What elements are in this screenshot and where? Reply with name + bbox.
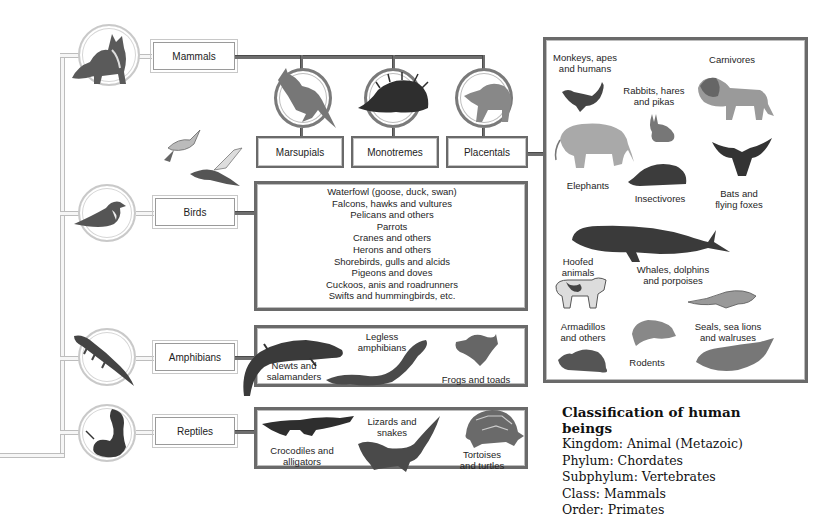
label-line: salamanders (264, 371, 324, 382)
crocodile-icon (260, 412, 356, 438)
label-line: and pikas (616, 96, 692, 107)
list-item: Cuckoos, anis and roadrunners (258, 279, 526, 291)
label-line: Insectivores (628, 193, 692, 204)
label-line: Rodents (624, 357, 670, 368)
list-item: Pelicans and others (258, 209, 526, 221)
subclass-placentals-box[interactable]: Placentals (446, 136, 528, 168)
rabbit-icon (646, 112, 678, 146)
fur-seal-icon (686, 286, 758, 310)
lion-icon (696, 72, 776, 122)
branch-reptiles (60, 430, 80, 435)
label-line: Crocodiles and (262, 445, 342, 456)
bat-icon (710, 136, 774, 180)
class-amphibians-box[interactable]: Amphibians (155, 343, 235, 371)
class-mammals-box[interactable]: Mammals (153, 42, 235, 70)
label-line: Carnivores (702, 54, 762, 65)
label-line: and walruses (688, 332, 768, 343)
order-lizards-label: Lizards and snakes (360, 416, 424, 438)
classification-row: Order: Primates (562, 502, 743, 519)
order-legless-label: Legless amphibians (350, 331, 414, 353)
class-label: Birds (184, 207, 207, 218)
class-birds-box[interactable]: Birds (155, 198, 235, 226)
subclass-monotremes-box[interactable]: Monotremes (351, 136, 439, 168)
connector (482, 55, 485, 69)
order-frogs-label: Frogs and toads (436, 374, 516, 385)
classification-title: beings (562, 420, 743, 436)
root-stem (0, 453, 64, 458)
list-item: Herons and others (258, 244, 526, 256)
list-item: Shorebirds, gulls and alcids (258, 256, 526, 268)
connector (136, 356, 154, 361)
list-item: Swifts and hummingbirds, etc. (258, 290, 526, 302)
hedgehog-icon (626, 158, 690, 190)
baboon-icon (460, 74, 516, 126)
label-line: Monkeys, apes (552, 52, 618, 63)
label-line: Lizards and (360, 416, 424, 427)
armadillo-icon (556, 346, 610, 376)
echidna-icon (356, 72, 432, 116)
order-carnivores-label: Carnivores (702, 54, 762, 65)
kangaroo-icon (272, 66, 338, 132)
order-rabbits-label: Rabbits, hares and pikas (616, 85, 692, 107)
class-label: Reptiles (177, 426, 213, 437)
list-item: Pigeons and doves (258, 267, 526, 279)
label-line: Armadillos (556, 321, 610, 332)
order-whales-label: Whales, dolphins and porpoises (632, 264, 714, 286)
mammals-connector (235, 55, 485, 59)
subclass-marsupials-box[interactable]: Marsupials (256, 136, 344, 168)
label-line: Hoofed (556, 256, 600, 267)
list-item: Parrots (258, 221, 526, 233)
classification-row: Phylum: Chordates (562, 453, 743, 470)
tortoise-icon (462, 406, 526, 450)
order-crocodiles-label: Crocodiles and alligators (262, 445, 342, 467)
class-label: Amphibians (169, 352, 221, 363)
connector (136, 430, 154, 435)
frog-icon (452, 330, 500, 366)
order-bats-label: Bats and flying foxes (704, 188, 774, 210)
connector (136, 211, 154, 216)
label-line: and porpoises (632, 275, 714, 286)
label-line: Frogs and toads (436, 374, 516, 385)
label-line: Legless (350, 331, 414, 342)
birds-connector (235, 211, 255, 215)
label-line: Bats and (704, 188, 774, 199)
classification-row: Subphylum: Vertebrates (562, 469, 743, 486)
label-line: animals (556, 267, 600, 278)
class-reptiles-box[interactable]: Reptiles (155, 417, 235, 445)
order-monkeys-label: Monkeys, apes and humans (552, 52, 618, 74)
label-line: Elephants (558, 180, 618, 191)
label-line: Rabbits, hares (616, 85, 692, 96)
order-insectivores-label: Insectivores (628, 193, 692, 204)
label-line: amphibians (350, 342, 414, 353)
order-armadillos-label: Armadillos and others (556, 321, 610, 343)
label-line: and humans (552, 63, 618, 74)
order-newts-label: Newts and salamanders (264, 360, 324, 382)
snake-icon (82, 405, 134, 461)
tree-trunk (60, 54, 65, 458)
salamander-icon (72, 332, 136, 388)
label-line: Tortoises (446, 449, 518, 460)
label-line: snakes (360, 427, 424, 438)
label-line: Whales, dolphins (632, 264, 714, 275)
dog-icon (68, 28, 140, 86)
list-item: Cranes and others (258, 232, 526, 244)
subclass-label: Monotremes (367, 147, 423, 158)
placentals-connector (526, 152, 544, 156)
label-line: flying foxes (704, 199, 774, 210)
subclass-label: Placentals (464, 147, 510, 158)
order-hoofed-label: Hoofed animals (556, 256, 600, 278)
classification-row: Kingdom: Animal (Metazoic) (562, 436, 743, 453)
list-item: Waterfowl (goose, duck, swan) (258, 186, 526, 198)
order-tortoises-label: Tortoises and turtles (446, 449, 518, 471)
cow-icon (552, 276, 608, 310)
reptiles-connector (235, 430, 255, 434)
label-line: Seals, sea lions (688, 321, 768, 332)
class-label: Mammals (172, 51, 215, 62)
label-line: alligators (262, 456, 342, 467)
order-seals-label: Seals, sea lions and walruses (688, 321, 768, 343)
flying-birds-icon (160, 126, 246, 192)
bird-icon (72, 196, 132, 236)
bird-orders-list: Waterfowl (goose, duck, swan) Falcons, h… (258, 186, 526, 302)
label-line: Newts and (264, 360, 324, 371)
monkey-icon (560, 80, 610, 114)
